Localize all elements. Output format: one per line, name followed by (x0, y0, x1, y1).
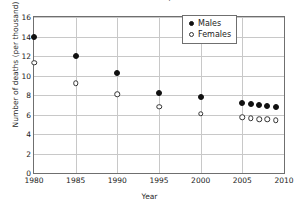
legend-item-label: Males (198, 19, 221, 28)
x-axis-tick-label: 2005 (233, 176, 252, 185)
x-axis-tick-label: 2010 (274, 176, 293, 185)
data-point-females (31, 60, 37, 66)
data-point-males (73, 53, 79, 59)
data-point-males (273, 104, 279, 110)
gridline-vertical (242, 17, 243, 173)
gridline-vertical (76, 17, 77, 173)
y-axis-tick-label: 2 (26, 149, 31, 158)
y-axis-tick-label: 12 (21, 52, 31, 61)
data-point-males (264, 103, 270, 109)
data-point-females (115, 91, 121, 97)
data-point-males (31, 34, 37, 40)
infant-mortality-chart: Infant mortality rate Number of deaths (… (0, 0, 299, 210)
legend-item-label: Females (198, 30, 231, 39)
legend-item: Males (187, 18, 231, 29)
data-point-males (248, 101, 254, 107)
y-axis-tick-label: 6 (26, 110, 31, 119)
data-point-females (156, 104, 162, 110)
data-point-females (73, 81, 79, 87)
data-point-males (114, 70, 120, 76)
data-point-females (198, 111, 204, 117)
data-point-females (265, 117, 271, 123)
y-axis-label: Number of deaths (per thousand) (11, 0, 20, 135)
data-point-females (256, 117, 262, 123)
chart-legend: MalesFemales (182, 15, 237, 44)
y-axis-tick-label: 4 (26, 130, 31, 139)
data-point-females (273, 118, 279, 124)
data-point-males (156, 90, 162, 96)
data-point-females (248, 116, 254, 122)
data-point-males (256, 102, 262, 108)
y-axis-tick-label: 14 (21, 32, 31, 41)
data-point-males (239, 100, 245, 106)
chart-title: Infant mortality rate (0, 0, 299, 1)
data-point-females (240, 115, 246, 121)
x-axis-tick-label: 1990 (108, 176, 127, 185)
y-axis-tick-label: 16 (21, 13, 31, 22)
y-axis-tick-label: 8 (26, 91, 31, 100)
plot-area: 0246810121416198019851990199520002005201… (33, 16, 285, 174)
x-axis-tick-label: 1985 (66, 176, 85, 185)
y-axis-tick-label: 10 (21, 71, 31, 80)
filled-circle-icon (187, 21, 196, 26)
x-axis-tick-label: 1980 (24, 176, 43, 185)
x-axis-tick-label: 2000 (191, 176, 210, 185)
data-point-males (198, 94, 204, 100)
legend-item: Females (187, 29, 231, 40)
x-axis-label: Year (0, 192, 299, 201)
open-circle-icon (187, 32, 196, 37)
x-axis-tick-label: 1995 (149, 176, 168, 185)
